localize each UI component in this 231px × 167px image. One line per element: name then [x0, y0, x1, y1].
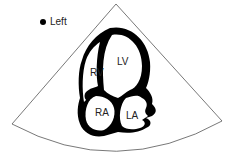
orientation-label: Left: [50, 16, 67, 27]
dot-icon: [40, 19, 46, 25]
label-la: LA: [126, 110, 139, 121]
orientation-marker: Left: [40, 16, 67, 27]
label-lv: LV: [117, 56, 129, 67]
label-ra: RA: [95, 107, 109, 118]
echo-diagram: RV LV RA LA: [0, 0, 231, 167]
label-rv: RV: [90, 67, 104, 78]
